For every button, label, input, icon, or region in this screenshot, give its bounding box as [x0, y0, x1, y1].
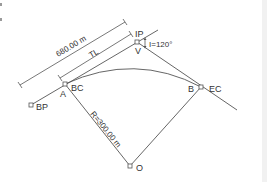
edge-mark — [0, 3, 2, 6]
ip-point — [135, 40, 139, 44]
center-point — [128, 164, 132, 168]
b-label: B — [188, 84, 194, 94]
dim-tick — [58, 75, 62, 81]
outer-dimension-label: 680.00 m — [54, 34, 88, 59]
edge-mark — [0, 18, 2, 21]
ip-label: IP — [135, 29, 144, 39]
forward-tangent-line — [137, 42, 237, 110]
bc-point — [63, 82, 67, 86]
dim-tick — [18, 82, 22, 88]
curve-diagram: IP V I=120° 680.00 m TL BC A BP B EC R=3… — [0, 0, 267, 182]
radius-label: R=300.00 m — [88, 110, 123, 150]
edge-bar — [262, 0, 267, 182]
dim-tick — [129, 31, 133, 37]
bp-label: BP — [36, 102, 48, 112]
outer-dimension-line — [20, 22, 125, 85]
bc-label: BC — [71, 83, 84, 93]
diagram-svg: IP V I=120° 680.00 m TL BC A BP B EC R=3… — [0, 0, 267, 182]
v-label: V — [135, 46, 141, 56]
tl-label: TL — [87, 47, 100, 60]
radius-line-b — [130, 87, 201, 166]
bp-point — [29, 103, 33, 107]
a-label: A — [60, 89, 66, 99]
angle-label: I=120° — [149, 40, 172, 49]
ec-point — [199, 85, 203, 89]
dim-tick — [123, 19, 127, 25]
ec-label: EC — [209, 84, 222, 94]
o-label: O — [136, 163, 143, 173]
